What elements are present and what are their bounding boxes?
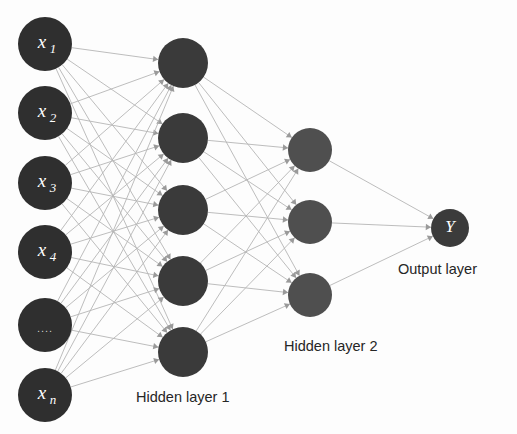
node-label-subscript: 2 <box>50 110 57 125</box>
node-hidden2-3[interactable] <box>288 273 332 317</box>
edge-input-4-to-hidden1-4 <box>72 330 159 347</box>
arrowhead-icon <box>161 185 167 191</box>
node-label: x <box>37 239 47 260</box>
edge-input-2-to-hidden1-2 <box>72 188 159 205</box>
arrowhead-icon <box>153 201 159 207</box>
node-label: x <box>37 382 47 403</box>
edge-input-0-to-hidden1-0 <box>72 48 158 60</box>
node-circle[interactable] <box>158 38 208 88</box>
arrowhead-icon <box>157 332 163 338</box>
edge-input-5-to-hidden1-4 <box>71 359 159 387</box>
node-label-subscript: 1 <box>50 41 57 56</box>
node-hidden1-4[interactable] <box>158 256 208 306</box>
arrowhead-icon <box>156 190 162 196</box>
node-hidden1-1[interactable] <box>158 38 208 88</box>
edge-input-5-to-hidden1-1 <box>58 160 171 371</box>
edge-input-4-to-hidden1-1 <box>61 158 168 303</box>
edge-input-1-to-hidden1-1 <box>72 118 159 134</box>
edge-input-5-to-hidden1-2 <box>61 230 168 373</box>
node-hidden2-1[interactable] <box>288 128 332 172</box>
caption-hidden-layer-2: Hidden layer 2 <box>284 339 378 354</box>
arrowhead-icon <box>290 272 296 278</box>
node-label: x <box>37 170 47 191</box>
node-circle[interactable] <box>288 200 332 244</box>
edge-hidden1-4-to-hidden2-1 <box>200 238 294 334</box>
edge-hidden1-2-to-hidden2-2 <box>204 224 292 283</box>
edge-hidden1-1-to-hidden2-2 <box>199 157 296 277</box>
arrowhead-icon <box>158 226 164 232</box>
node-input-1[interactable]: x1 <box>18 17 72 71</box>
edge-hidden1-2-to-hidden2-0 <box>206 159 291 199</box>
arrowhead-icon <box>158 154 164 160</box>
arrowhead-icon <box>162 230 168 236</box>
arrowhead-icon <box>153 56 159 62</box>
arrowhead-icon <box>286 277 292 283</box>
edge-input-5-to-hidden1-0 <box>55 86 173 370</box>
edge-input-2-to-hidden1-4 <box>62 204 167 333</box>
node-input-5[interactable]: .... <box>18 298 72 352</box>
arrowhead-icon <box>283 289 289 295</box>
node-input-4[interactable]: x4 <box>18 225 72 279</box>
edge-hidden1-3-to-hidden2-1 <box>206 231 290 270</box>
node-circle[interactable] <box>158 256 208 306</box>
node-hidden1-2[interactable] <box>158 113 208 163</box>
edges-group <box>55 48 433 387</box>
node-circle[interactable] <box>288 273 332 317</box>
node-input-3[interactable]: x3 <box>18 156 72 210</box>
arrowhead-icon <box>283 216 288 222</box>
edge-input-0-to-hidden1-1 <box>67 59 162 124</box>
node-circle[interactable] <box>158 185 208 235</box>
node-label: Y <box>445 217 456 236</box>
edge-input-3-to-hidden1-0 <box>61 83 168 230</box>
edge-hidden1-4-to-hidden2-2 <box>206 304 290 342</box>
arrowhead-icon <box>283 144 288 150</box>
node-label-subscript: 3 <box>49 180 57 195</box>
node-hidden1-3[interactable] <box>158 185 208 235</box>
arrowhead-icon <box>153 343 159 349</box>
arrowhead-icon <box>161 327 167 333</box>
arrowhead-icon <box>286 132 292 138</box>
arrowhead-icon <box>291 199 297 205</box>
node-circle[interactable] <box>158 113 208 163</box>
node-circle[interactable] <box>158 327 208 377</box>
neural-network-diagram: x1x2x3x4....xnY Hidden layer 1 Hidden la… <box>0 0 517 434</box>
edge-hidden1-1-to-hidden2-0 <box>208 140 288 148</box>
edge-hidden2-1-to-output-0 <box>332 223 431 227</box>
edge-hidden1-1-to-hidden2-1 <box>204 152 292 210</box>
edge-input-1-to-hidden1-0 <box>70 72 159 104</box>
node-label-ellipsis: .... <box>37 322 53 334</box>
arrowhead-icon <box>153 272 159 278</box>
node-label: x <box>37 31 47 52</box>
node-label-subscript: n <box>50 392 57 407</box>
node-input-2[interactable]: x2 <box>18 86 72 140</box>
arrowhead-icon <box>426 224 431 230</box>
node-input-6[interactable]: xn <box>18 368 72 422</box>
node-hidden1-5[interactable] <box>158 327 208 377</box>
caption-hidden-layer-1: Hidden layer 1 <box>136 390 230 405</box>
caption-output-layer: Output layer <box>398 262 477 277</box>
node-output-1[interactable]: Y <box>431 209 469 247</box>
edge-input-4-to-hidden1-2 <box>66 226 164 308</box>
arrowhead-icon <box>286 204 292 210</box>
node-hidden2-2[interactable] <box>288 200 332 244</box>
node-label-subscript: 4 <box>50 249 57 264</box>
edge-hidden2-0-to-output-0 <box>329 161 433 219</box>
edge-hidden1-0-to-hidden2-0 <box>204 77 292 137</box>
node-label: x <box>37 100 47 121</box>
network-canvas: x1x2x3x4....xnY <box>0 0 517 434</box>
arrowhead-icon <box>161 256 167 262</box>
node-circle[interactable] <box>288 128 332 172</box>
arrowhead-icon <box>157 261 163 267</box>
